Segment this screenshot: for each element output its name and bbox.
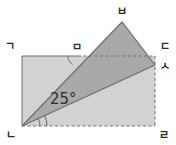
geometry-figure-canvas: ㄱ ㅁ ㅂ ㄷ ㅅ ㄴ ㄹ 25° bbox=[0, 0, 176, 145]
vertex-label-bottom-left: ㄴ bbox=[6, 129, 16, 142]
vertex-label-apex: ㅂ bbox=[117, 5, 127, 18]
vertex-label-top-mid: ㅁ bbox=[72, 41, 82, 54]
angle-measure-label: 25° bbox=[50, 90, 77, 108]
geometry-svg: ㄱ ㅁ ㅂ ㄷ ㅅ ㄴ ㄹ 25° bbox=[0, 0, 176, 145]
vertex-label-right-inner: ㅅ bbox=[160, 60, 170, 73]
vertex-label-bottom-right: ㄹ bbox=[159, 129, 169, 142]
vertex-label-right-top: ㄷ bbox=[160, 40, 170, 53]
vertex-label-top-left: ㄱ bbox=[5, 40, 15, 53]
